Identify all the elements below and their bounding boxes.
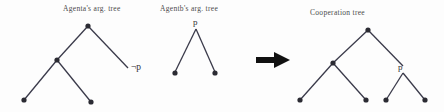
edge-c-left-ll <box>300 63 333 100</box>
edge-a-left-lr <box>57 60 91 102</box>
edge-c-root-left <box>333 30 368 63</box>
node-c-leaf-rr <box>422 97 427 102</box>
node-a-leaf-lr <box>88 99 93 104</box>
edge-c-left-lr <box>333 63 366 100</box>
node-c-leaf-rl <box>383 97 388 102</box>
edge-c-root-right <box>368 30 403 66</box>
agent-a-tree <box>21 23 128 104</box>
arrow-head <box>274 52 290 68</box>
node-b-leaf-left <box>172 70 177 75</box>
agent-b-edges <box>175 29 215 72</box>
node-c-root <box>365 27 370 32</box>
figure-canvas <box>0 0 444 112</box>
agent-b-nodes <box>172 70 217 75</box>
edge-a-root-left <box>57 26 88 60</box>
node-label-not-p: ¬p <box>131 62 141 72</box>
caption-cooperation-tree: Cooperation tree <box>310 8 365 17</box>
edge-a-left-ll <box>24 60 57 100</box>
node-c-leaf-lr <box>363 97 368 102</box>
caption-agent-a-tree: Agenta's arg. tree <box>63 4 121 13</box>
node-c-left <box>330 60 335 65</box>
node-a-left <box>54 57 59 62</box>
caption-agent-b-tree: Agentb's arg. tree <box>160 4 218 13</box>
argumentation-tree-figure: Agenta's arg. tree Agentb's arg. tree Co… <box>0 0 444 112</box>
arrow-shaft <box>256 57 276 63</box>
agent-b-tree <box>172 29 217 76</box>
node-label-p-cooperation: p <box>398 62 403 72</box>
edge-c-right-rl <box>386 73 403 100</box>
node-a-root <box>85 23 90 28</box>
edge-a-root-right <box>88 26 128 68</box>
transformation-arrow <box>256 52 290 68</box>
cooperation-tree <box>297 27 427 102</box>
node-a-leaf-ll <box>21 97 26 102</box>
agent-a-edges <box>24 26 128 102</box>
node-b-leaf-right <box>212 70 217 75</box>
node-label-p-agent-b: p <box>193 17 198 27</box>
edge-b-root-left <box>175 29 196 72</box>
edge-b-root-right <box>196 29 215 72</box>
edge-c-right-rr <box>403 73 425 100</box>
cooperation-nodes <box>297 27 427 102</box>
cooperation-edges <box>300 30 425 100</box>
node-c-leaf-ll <box>297 97 302 102</box>
